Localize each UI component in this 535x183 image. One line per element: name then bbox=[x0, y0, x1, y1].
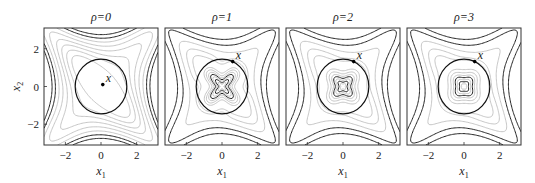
contour-level bbox=[50, 32, 153, 141]
contour-lines bbox=[44, 28, 158, 145]
contour-level bbox=[193, 56, 251, 118]
panel-2: xρ=2−202x1 bbox=[286, 10, 400, 180]
contour-level bbox=[340, 84, 345, 90]
contour-level bbox=[421, 41, 506, 131]
point-label: x bbox=[235, 48, 242, 62]
x-tick-label: −2 bbox=[60, 149, 72, 161]
panel-title: ρ=0 bbox=[90, 10, 111, 24]
contour-level bbox=[435, 56, 493, 118]
contour-level bbox=[72, 56, 130, 118]
point-marker bbox=[473, 60, 477, 64]
point-marker bbox=[101, 83, 105, 87]
x-tick-label: 2 bbox=[255, 149, 261, 161]
point-marker bbox=[352, 60, 356, 64]
contour-level bbox=[338, 81, 348, 92]
x-tick-label: −2 bbox=[181, 149, 193, 161]
panel-title: ρ=1 bbox=[211, 10, 232, 24]
x-tick-label: 2 bbox=[376, 149, 382, 161]
contour-level bbox=[461, 84, 466, 89]
x-tick-label: 0 bbox=[340, 149, 346, 161]
panel-title: ρ=3 bbox=[453, 10, 474, 24]
contour-level bbox=[459, 82, 468, 92]
point-marker bbox=[231, 60, 235, 64]
x-tick-label: 0 bbox=[98, 149, 104, 161]
y-tick-label: 0 bbox=[34, 81, 40, 93]
constraint-circle bbox=[438, 59, 490, 114]
contour-level bbox=[62, 45, 140, 128]
contour-level bbox=[314, 56, 372, 118]
contour-level bbox=[67, 50, 136, 123]
constraint-circle bbox=[75, 59, 127, 114]
contour-level bbox=[169, 30, 276, 143]
point-label: x bbox=[477, 48, 484, 62]
x-axis-label: x1 bbox=[216, 164, 226, 180]
x-tick-label: 2 bbox=[497, 149, 503, 161]
x-tick-label: −2 bbox=[423, 149, 435, 161]
contour-level bbox=[216, 80, 229, 94]
x-axis-label: x1 bbox=[95, 164, 105, 180]
panel-title: ρ=2 bbox=[332, 10, 353, 24]
y-tick-label: 2 bbox=[34, 43, 40, 55]
contour-level bbox=[455, 77, 472, 96]
contour-level bbox=[218, 83, 226, 91]
panel-3: xρ=3−202x1 bbox=[407, 10, 521, 180]
point-label: x bbox=[356, 48, 363, 62]
contour-level bbox=[211, 75, 234, 99]
contour-level bbox=[411, 30, 518, 143]
contour-level bbox=[336, 79, 350, 94]
contour-level bbox=[326, 69, 359, 104]
constraint-circle bbox=[196, 59, 248, 114]
contour-level bbox=[179, 41, 264, 131]
figure: xρ=0−202−202x1x2xρ=1−202x1xρ=2−202x1xρ=3… bbox=[0, 0, 535, 183]
contour-lines bbox=[286, 28, 400, 145]
panel-1: xρ=1−202x1 bbox=[165, 10, 279, 180]
contour-lines bbox=[165, 28, 279, 145]
x-tick-label: 0 bbox=[219, 149, 225, 161]
x-axis-label: x1 bbox=[337, 164, 347, 180]
contour-lines bbox=[407, 28, 521, 145]
x-tick-label: −2 bbox=[302, 149, 314, 161]
contour-level bbox=[209, 72, 236, 100]
x-tick-label: 2 bbox=[134, 149, 140, 161]
y-axis-label: x2 bbox=[9, 82, 25, 92]
panels: xρ=0−202−202x1x2xρ=1−202x1xρ=2−202x1xρ=3… bbox=[9, 10, 521, 180]
contour-level bbox=[187, 49, 258, 124]
x-tick-label: 0 bbox=[461, 149, 467, 161]
contour-level bbox=[300, 41, 385, 131]
contour-level bbox=[57, 40, 146, 134]
panel-0: xρ=0−202−202x1x2 bbox=[9, 10, 158, 180]
constraint-circle bbox=[317, 59, 369, 114]
contour-level bbox=[308, 49, 379, 124]
point-label: x bbox=[105, 71, 112, 85]
x-axis-label: x1 bbox=[458, 164, 468, 180]
contour-level bbox=[290, 30, 397, 143]
y-tick-label: −2 bbox=[27, 118, 39, 130]
